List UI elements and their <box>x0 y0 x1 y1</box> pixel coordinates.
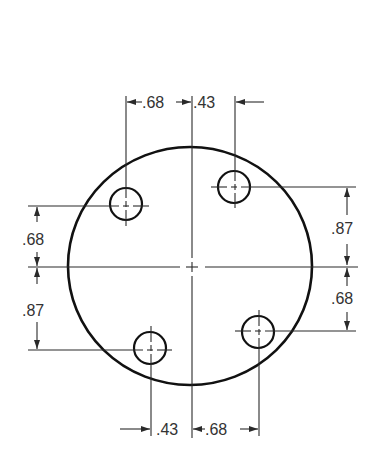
dim-top-left: .68 <box>142 94 164 111</box>
engineering-drawing: .68 .43 .43 .68 .68 .87 .87 .68 <box>0 0 387 452</box>
dim-left-lower: .87 <box>22 302 44 319</box>
dim-left-upper: .68 <box>22 231 44 248</box>
dim-top-right: .43 <box>193 94 215 111</box>
dimension-left: .68 .87 <box>22 207 44 349</box>
outer-circle <box>68 147 312 385</box>
dimension-top: .68 .43 <box>127 94 264 111</box>
dim-bottom-right: .68 <box>205 421 227 438</box>
hole-lower-right <box>235 310 356 436</box>
dimension-right: .87 .68 <box>331 188 353 330</box>
dim-right-lower: .68 <box>331 290 353 307</box>
dimension-bottom: .43 .68 <box>120 421 258 438</box>
hole-lower-left <box>28 326 172 436</box>
dim-bottom-left: .43 <box>156 421 178 438</box>
dim-right-upper: .87 <box>331 220 353 237</box>
